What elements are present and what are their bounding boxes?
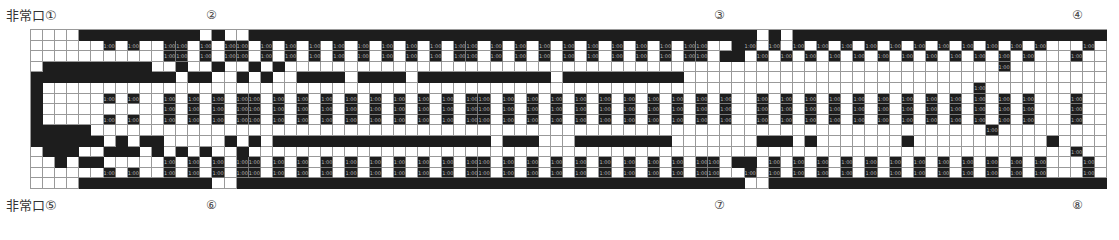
seat-cell[interactable]: 1:00 [212,94,224,105]
seat-cell[interactable]: 1:00 [902,94,914,105]
seat-cell[interactable]: 1:00 [237,51,249,62]
seat-cell[interactable]: 1:00 [1035,41,1047,52]
seat-cell[interactable]: 1:00 [974,104,986,115]
seat-cell[interactable]: 1:00 [1011,41,1023,52]
seat-cell[interactable]: 1:00 [128,168,140,179]
seat-cell[interactable]: 1:00 [212,115,224,126]
seat-cell[interactable]: 1:00 [442,157,454,168]
seat-cell[interactable]: 1:00 [466,51,478,62]
seat-cell[interactable]: 1:00 [938,157,950,168]
seat-cell[interactable]: 1:00 [865,157,877,168]
seat-cell[interactable]: 1:00 [805,104,817,115]
seat-cell[interactable]: 1:00 [745,41,757,52]
seat-cell[interactable]: 1:00 [212,168,224,179]
seat-cell[interactable]: 1:00 [962,41,974,52]
seat-cell[interactable]: 1:00 [237,157,249,168]
seat-cell[interactable]: 1:00 [297,94,309,105]
seat-cell[interactable]: 1:00 [696,168,708,179]
seat-cell[interactable]: 1:00 [370,104,382,115]
seat-cell[interactable]: 1:00 [394,94,406,105]
seat-cell[interactable]: 1:00 [212,157,224,168]
seat-cell[interactable]: 1:00 [829,94,841,105]
seat-cell[interactable]: 1:00 [575,104,587,115]
seat-cell[interactable]: 1:00 [237,94,249,105]
seat-cell[interactable]: 1:00 [200,51,212,62]
seat-cell[interactable]: 1:00 [805,115,817,126]
seat-cell[interactable]: 1:00 [297,115,309,126]
seat-cell[interactable]: 1:00 [1023,115,1035,126]
seat-cell[interactable]: 1:00 [878,104,890,115]
seat-cell[interactable]: 1:00 [890,157,902,168]
seat-cell[interactable]: 1:00 [128,115,140,126]
seat-cell[interactable]: 1:00 [624,157,636,168]
seat-cell[interactable]: 1:00 [1071,104,1083,115]
seat-cell[interactable]: 1:00 [829,115,841,126]
seat-cell[interactable]: 1:00 [624,115,636,126]
seat-cell[interactable]: 1:00 [781,94,793,105]
seat-cell[interactable]: 1:00 [684,41,696,52]
seat-cell[interactable]: 1:00 [599,168,611,179]
seat-cell[interactable]: 1:00 [551,104,563,115]
seat-cell[interactable]: 1:00 [551,115,563,126]
seat-cell[interactable]: 1:00 [442,104,454,115]
seat-cell[interactable]: 1:00 [539,51,551,62]
seat-cell[interactable]: 1:00 [527,157,539,168]
seat-cell[interactable]: 1:00 [853,51,865,62]
seat-cell[interactable]: 1:00 [999,51,1011,62]
seat-cell[interactable]: 1:00 [273,115,285,126]
seat-cell[interactable]: 1:00 [575,157,587,168]
seat-cell[interactable]: 1:00 [829,104,841,115]
seat-cell[interactable]: 1:00 [841,41,853,52]
seat-cell[interactable]: 1:00 [1071,51,1083,62]
seat-cell[interactable]: 1:00 [370,157,382,168]
seat-cell[interactable]: 1:00 [321,94,333,105]
seat-cell[interactable]: 1:00 [805,94,817,105]
seat-cell[interactable]: 1:00 [225,41,237,52]
seat-cell[interactable]: 1:00 [237,168,249,179]
seat-cell[interactable]: 1:00 [563,51,575,62]
seat-cell[interactable]: 1:00 [636,41,648,52]
seat-cell[interactable]: 1:00 [309,51,321,62]
seat-cell[interactable]: 1:00 [587,41,599,52]
seat-cell[interactable]: 1:00 [1083,41,1095,52]
seat-cell[interactable]: 1:00 [1071,115,1083,126]
seat-cell[interactable]: 1:00 [382,41,394,52]
seat-cell[interactable]: 1:00 [418,104,430,115]
seat-cell[interactable]: 1:00 [878,115,890,126]
seat-cell[interactable]: 1:00 [938,168,950,179]
seat-cell[interactable]: 1:00 [986,41,998,52]
seat-cell[interactable]: 1:00 [599,94,611,105]
seat-cell[interactable]: 1:00 [1035,168,1047,179]
seat-cell[interactable]: 1:00 [188,157,200,168]
seat-cell[interactable]: 1:00 [249,157,261,168]
seat-cell[interactable]: 1:00 [1071,147,1083,158]
seat-cell[interactable]: 1:00 [902,51,914,62]
seat-cell[interactable]: 1:00 [696,104,708,115]
seat-cell[interactable]: 1:00 [648,115,660,126]
seat-cell[interactable]: 1:00 [503,157,515,168]
seat-cell[interactable]: 1:00 [986,125,998,136]
seat-cell[interactable]: 1:00 [974,94,986,105]
seat-cell[interactable]: 1:00 [684,51,696,62]
seat-cell[interactable]: 1:00 [418,168,430,179]
seat-cell[interactable]: 1:00 [793,157,805,168]
seat-cell[interactable]: 1:00 [853,115,865,126]
seat-cell[interactable]: 1:00 [539,41,551,52]
seat-cell[interactable]: 1:00 [237,104,249,115]
seat-cell[interactable]: 1:00 [442,115,454,126]
seat-cell[interactable]: 1:00 [720,115,732,126]
seat-cell[interactable]: 1:00 [491,41,503,52]
seat-cell[interactable]: 1:00 [853,104,865,115]
seat-cell[interactable]: 1:00 [974,115,986,126]
seat-cell[interactable]: 1:00 [624,94,636,105]
seat-cell[interactable]: 1:00 [950,115,962,126]
seat-cell[interactable]: 1:00 [1011,168,1023,179]
seat-cell[interactable]: 1:00 [769,168,781,179]
seat-cell[interactable]: 1:00 [599,104,611,115]
seat-cell[interactable]: 1:00 [1023,104,1035,115]
seat-cell[interactable]: 1:00 [442,94,454,105]
seat-cell[interactable]: 1:00 [527,104,539,115]
seat-cell[interactable]: 1:00 [466,157,478,168]
seat-cell[interactable]: 1:00 [297,168,309,179]
seat-cell[interactable]: 1:00 [478,104,490,115]
